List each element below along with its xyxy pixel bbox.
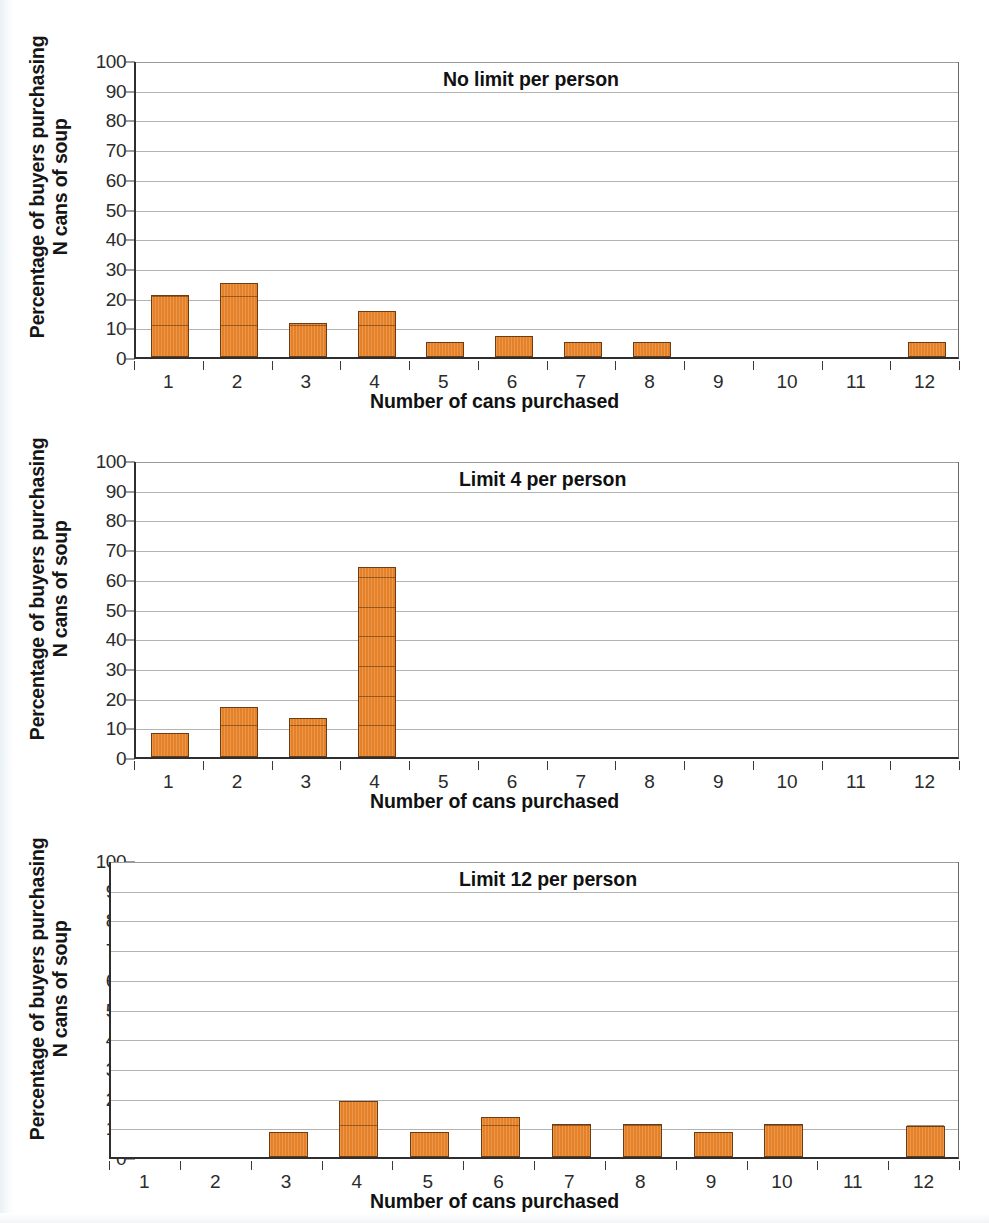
bar-gridline	[290, 325, 326, 326]
x-tick-mark	[478, 761, 479, 770]
bar	[633, 342, 671, 357]
x-tick-mark	[888, 1161, 889, 1170]
bar-gridline	[340, 1125, 377, 1126]
x-tick-mark	[615, 361, 616, 370]
y-tick-label: 40	[106, 229, 126, 251]
x-tick-mark	[409, 361, 410, 370]
x-tick-mark	[409, 761, 410, 770]
x-tick-mark	[684, 361, 685, 370]
bar	[410, 1132, 449, 1157]
y-tick-label: 40	[106, 629, 126, 651]
plot-area	[134, 62, 959, 359]
x-tick-mark	[959, 361, 960, 370]
bar	[694, 1132, 733, 1157]
bar	[220, 283, 258, 357]
bar	[552, 1124, 591, 1157]
chart-panel-no-limit: Percentage of buyers purchasing N cans o…	[0, 0, 989, 410]
x-tick-mark	[890, 761, 891, 770]
y-axis-title: Percentage of buyers purchasing N cans o…	[0, 22, 96, 352]
x-tick-mark	[272, 361, 273, 370]
y-tick-label: 20	[106, 289, 126, 311]
y-axis-title-line2: N cans of soup	[48, 36, 71, 339]
y-tick-label: 60	[106, 170, 126, 192]
x-tick-mark	[753, 761, 754, 770]
bar	[764, 1124, 803, 1157]
x-tick-mark	[684, 761, 685, 770]
bar	[481, 1117, 520, 1157]
panel-title: Limit 12 per person	[459, 868, 637, 891]
x-tick-mark	[822, 761, 823, 770]
bar	[269, 1132, 308, 1157]
y-tick-label: 70	[106, 540, 126, 562]
bar-gridline	[152, 325, 188, 326]
bar-series	[136, 462, 958, 757]
bar-gridline	[359, 607, 395, 608]
y-axis-title-line1: Percentage of buyers purchasing	[25, 838, 47, 1141]
bar	[564, 342, 602, 357]
y-tick-label: 20	[106, 689, 126, 711]
x-tick-mark	[615, 761, 616, 770]
x-tick-mark	[340, 761, 341, 770]
bar	[908, 342, 946, 357]
x-tick-mark	[322, 1161, 323, 1170]
chart-panel-limit-4: Percentage of buyers purchasing N cans o…	[0, 410, 989, 810]
bar-gridline	[359, 636, 395, 637]
y-tick-label: 60	[106, 570, 126, 592]
bar-gridline	[152, 296, 188, 297]
y-axis-title: Percentage of buyers purchasing N cans o…	[0, 824, 96, 1154]
x-axis-title: Number of cans purchased	[0, 1190, 989, 1213]
bar-gridline	[553, 1125, 590, 1126]
y-axis-title-line2: N cans of soup	[48, 438, 71, 741]
bar	[495, 336, 533, 357]
bar-gridline	[290, 725, 326, 726]
x-tick-mark	[890, 361, 891, 370]
bar-series	[111, 862, 958, 1157]
y-tick-label: 50	[106, 600, 126, 622]
x-tick-mark	[753, 361, 754, 370]
bar	[358, 311, 396, 357]
x-tick-mark	[134, 361, 135, 370]
bar-gridline	[359, 577, 395, 578]
bar-gridline	[221, 325, 257, 326]
y-tick-label: 70	[106, 140, 126, 162]
x-tick-mark	[272, 761, 273, 770]
bar-gridline	[359, 696, 395, 697]
y-axis-title-line1: Percentage of buyers purchasing	[25, 36, 47, 339]
bar-gridline	[221, 296, 257, 297]
bar-gridline	[624, 1125, 661, 1126]
chart-panel-stack: Percentage of buyers purchasing N cans o…	[0, 0, 989, 1223]
x-tick-mark	[959, 1161, 960, 1170]
x-tick-mark	[959, 761, 960, 770]
y-axis-ticks: 1009080706050403020100	[86, 410, 134, 789]
bar-gridline	[359, 666, 395, 667]
x-tick-mark	[747, 1161, 748, 1170]
x-tick-mark	[547, 761, 548, 770]
x-tick-mark	[392, 1161, 393, 1170]
y-tick-label: 80	[106, 510, 126, 532]
y-axis-title: Percentage of buyers purchasing N cans o…	[0, 424, 96, 754]
x-tick-mark	[251, 1161, 252, 1170]
x-tick-mark	[109, 1161, 110, 1170]
y-tick-label: 80	[106, 110, 126, 132]
y-tick-label: 90	[106, 81, 126, 103]
x-tick-mark	[134, 761, 135, 770]
y-tick-label: 30	[106, 659, 126, 681]
x-tick-mark	[180, 1161, 181, 1170]
y-tick-label: 50	[106, 200, 126, 222]
y-tick-label: 90	[106, 481, 126, 503]
x-tick-mark	[817, 1161, 818, 1170]
bar	[220, 707, 258, 757]
bar	[426, 342, 464, 357]
bar	[151, 295, 189, 357]
y-tick-label: 0	[116, 748, 126, 770]
bar-gridline	[907, 1125, 944, 1126]
y-axis-title-line1: Percentage of buyers purchasing	[25, 438, 47, 741]
y-tick-label: 10	[106, 318, 126, 340]
x-tick-mark	[203, 361, 204, 370]
x-tick-mark	[340, 361, 341, 370]
chart-panel-limit-12: Percentage of buyers purchasing N cans o…	[0, 810, 989, 1223]
x-tick-mark	[547, 361, 548, 370]
bar-gridline	[359, 725, 395, 726]
bar	[151, 733, 189, 757]
y-tick-label: 0	[116, 348, 126, 370]
